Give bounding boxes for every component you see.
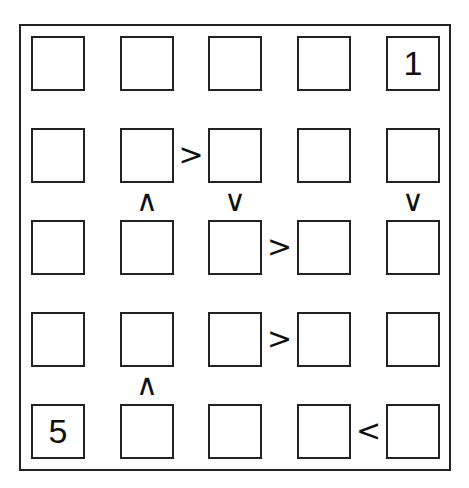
grid-cell-r1-c1[interactable] (31, 36, 85, 91)
greater-than-sign: > (265, 324, 295, 354)
grid-cell-r2-c1[interactable] (31, 128, 85, 183)
grid-cell-r1-c3[interactable] (208, 36, 262, 91)
grid-cell-r3-c3[interactable] (208, 220, 262, 275)
up-inequality-sign: ∧ (132, 186, 162, 216)
up-inequality-sign: ∧ (132, 370, 162, 400)
grid-cell-r4-c1[interactable] (31, 312, 85, 367)
grid-cell-r5-c4[interactable] (297, 404, 351, 459)
grid-cell-r1-c4[interactable] (297, 36, 351, 91)
grid-cell-r2-c4[interactable] (297, 128, 351, 183)
grid-cell-r1-c5[interactable]: 1 (386, 36, 440, 91)
greater-than-sign: > (265, 232, 295, 262)
grid-cell-r3-c4[interactable] (297, 220, 351, 275)
down-inequality-sign: ∨ (220, 186, 250, 216)
grid-cell-r2-c5[interactable] (386, 128, 440, 183)
grid-cell-r1-c2[interactable] (120, 36, 174, 91)
grid-cell-r4-c5[interactable] (386, 312, 440, 367)
grid-cell-r5-c3[interactable] (208, 404, 262, 459)
grid-cell-r3-c2[interactable] (120, 220, 174, 275)
grid-cell-r5-c5[interactable] (386, 404, 440, 459)
grid-cell-r4-c2[interactable] (120, 312, 174, 367)
less-than-sign: < (354, 416, 384, 446)
grid-cell-r4-c3[interactable] (208, 312, 262, 367)
down-inequality-sign: ∨ (398, 186, 428, 216)
greater-than-sign: > (176, 140, 206, 170)
grid-cell-r2-c2[interactable] (120, 128, 174, 183)
grid-cell-r3-c1[interactable] (31, 220, 85, 275)
grid-cell-r5-c2[interactable] (120, 404, 174, 459)
grid-cell-r5-c1[interactable]: 5 (31, 404, 85, 459)
grid-cell-r4-c4[interactable] (297, 312, 351, 367)
grid-cell-r2-c3[interactable] (208, 128, 262, 183)
grid-cell-r3-c5[interactable] (386, 220, 440, 275)
